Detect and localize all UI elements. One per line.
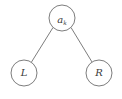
edge-root-left [32,28,54,63]
node-root-label-subscript: k [63,19,67,26]
node-root-label: ak [57,10,67,26]
tree-diagram: ak L R [0,0,122,99]
node-right-label: R [95,68,103,78]
edge-root-right [71,28,92,63]
node-left-label: L [21,68,28,78]
